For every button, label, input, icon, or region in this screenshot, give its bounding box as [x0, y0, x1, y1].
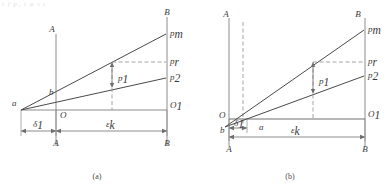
- label-axis-b-top: B: [355, 9, 361, 19]
- line-pm: [225, 30, 364, 127]
- diagram-b: A A B B O b a O1 pm pr p2 p1 δ1 εk: [193, 0, 387, 170]
- label-axis-a-top: A: [222, 9, 229, 19]
- label-origin-o: O: [60, 110, 67, 120]
- label-p1: p1: [117, 73, 128, 85]
- label-axis-b-top: B: [164, 7, 170, 17]
- label-axis-a-bottom: A: [52, 138, 59, 148]
- label-pm: pm: [367, 24, 381, 36]
- line-pm: [21, 34, 166, 110]
- diagram-a: A A B B a b O O1 pm pr p2 p1 δ1 εk: [0, 0, 193, 170]
- figure-root: t f p₂ t φ ι ι: [0, 0, 387, 194]
- label-origin-o: O: [219, 110, 226, 120]
- label-epsilonk: εk: [291, 125, 301, 137]
- label-p2: p2: [169, 72, 181, 84]
- label-point-b: b: [49, 87, 54, 97]
- label-axis-b-bottom: B: [164, 138, 170, 148]
- line-p2: [21, 78, 166, 110]
- label-pr: pr: [169, 56, 180, 68]
- label-pm: pm: [169, 28, 183, 40]
- label-axis-a-top: A: [48, 24, 55, 34]
- label-p2: p2: [367, 70, 379, 82]
- label-axis-a-bottom: A: [225, 144, 232, 154]
- label-origin-o1: O1: [170, 100, 182, 112]
- label-point-a: a: [259, 122, 264, 132]
- caption-a: (a): [62, 172, 132, 181]
- caption-b: (b): [255, 172, 325, 181]
- label-delta1: δ1: [33, 119, 43, 131]
- label-point-a: a: [12, 98, 17, 108]
- measure-p1-arrowhead-bottom: [311, 89, 315, 94]
- label-point-b: b: [220, 125, 225, 135]
- measure-p1-arrowhead-bottom: [110, 83, 114, 88]
- label-p1: p1: [318, 76, 329, 88]
- label-origin-o1: O1: [368, 109, 380, 121]
- label-epsilonk: εk: [106, 119, 116, 131]
- label-axis-b-bottom: B: [362, 144, 368, 154]
- label-pr: pr: [367, 56, 378, 68]
